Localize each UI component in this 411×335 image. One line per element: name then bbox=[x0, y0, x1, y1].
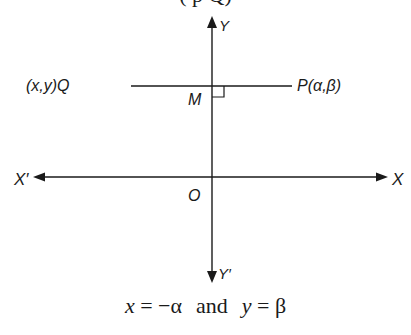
caption-y-variable: y bbox=[242, 293, 252, 318]
x-axis-left-arrow-icon bbox=[33, 173, 45, 182]
point-m-label: M bbox=[188, 92, 201, 108]
y-positive-label: Y bbox=[219, 18, 229, 33]
point-q-label: (x,y)Q bbox=[26, 78, 70, 94]
coordinate-diagram bbox=[0, 0, 411, 335]
caption-x-value: = −α bbox=[135, 293, 182, 318]
point-p-label: P(α,β) bbox=[297, 78, 341, 94]
caption-y-value: = β bbox=[252, 293, 287, 318]
origin-label: O bbox=[188, 188, 200, 204]
y-axis-up-arrow-icon bbox=[207, 16, 217, 28]
caption-equation: x = −αandy = β bbox=[0, 293, 411, 319]
x-axis-right-arrow-icon bbox=[376, 173, 388, 182]
y-negative-label: Y′ bbox=[218, 266, 231, 281]
right-angle-marker-icon bbox=[212, 86, 224, 97]
caption-x-variable: x bbox=[125, 293, 135, 318]
x-positive-label: X bbox=[392, 171, 403, 188]
caption-and: and bbox=[196, 293, 228, 318]
x-negative-label: X′ bbox=[14, 171, 29, 188]
y-axis-down-arrow-icon bbox=[207, 271, 217, 283]
